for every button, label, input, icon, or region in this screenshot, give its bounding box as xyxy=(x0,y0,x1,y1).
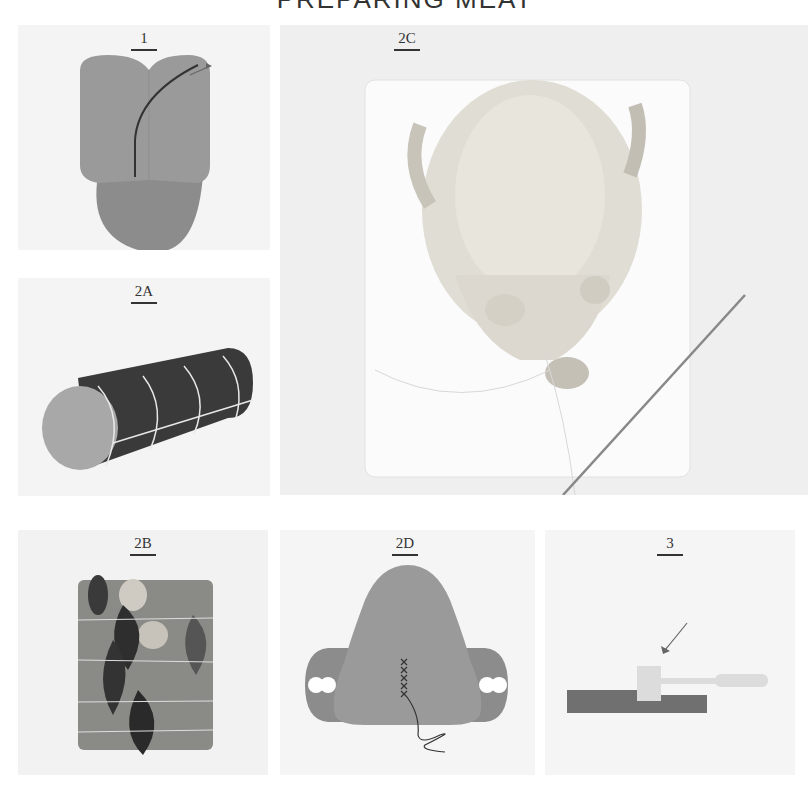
boning-leg-diagram xyxy=(18,25,270,250)
panel-3: 3 xyxy=(545,530,795,775)
mallet-shaft xyxy=(661,678,721,684)
herb-roll-photo xyxy=(18,530,268,775)
mallet-handle xyxy=(715,674,768,687)
panel-2c: 2C xyxy=(280,25,808,495)
panel-2b: 2B xyxy=(18,530,268,775)
panel-1: 1 xyxy=(18,25,270,250)
panel-2a: 2A xyxy=(18,278,270,496)
page-title: PREPARING MEAT xyxy=(0,0,810,15)
pounding-meat-diagram xyxy=(545,530,795,775)
arrow-icon xyxy=(665,623,687,650)
mallet-head xyxy=(637,666,661,701)
sewing-cavity-diagram xyxy=(280,530,535,775)
chicken-photo xyxy=(280,25,808,495)
rolled-roast-diagram xyxy=(18,278,270,496)
panel-2d: 2D xyxy=(280,530,535,775)
